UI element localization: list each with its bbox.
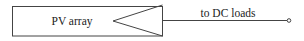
pv-diagram: PV array to DC loads: [0, 0, 304, 41]
pv-array-label: PV array: [52, 15, 93, 28]
output-label: to DC loads: [201, 7, 256, 19]
pv-array-symbol-icon: [113, 5, 163, 36]
terminal-icon: [287, 19, 291, 23]
